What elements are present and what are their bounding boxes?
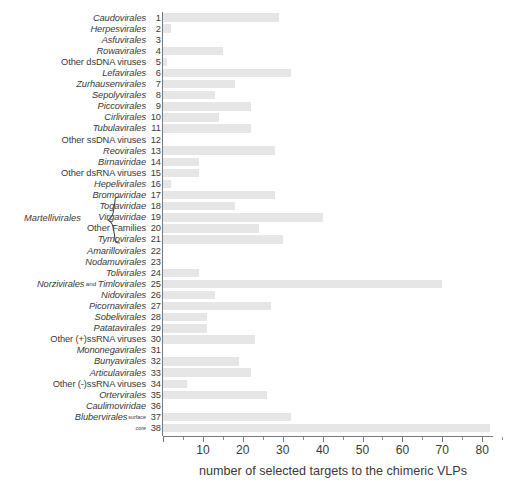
category-label-row: Other ssDNA viruses12 [0,134,163,145]
category-label-number: 25 [146,279,161,289]
bar [163,146,275,155]
bar [163,58,167,67]
category-label-name: Piccovirales [98,101,146,111]
x-axis-title: number of selected targets to the chimer… [163,464,503,478]
bar [163,391,267,400]
bar [163,380,187,389]
category-label-number: 24 [146,268,161,278]
x-tick-major [203,437,204,442]
x-tick-minor [183,437,184,440]
category-label-row: Articulavirales33 [0,367,163,378]
x-tick-label: 20 [236,443,249,457]
category-label-row: Rowavirales4 [0,45,163,56]
category-label-row: core38 [0,422,163,433]
category-label-number: 32 [146,356,161,366]
category-label-number: 12 [146,135,161,145]
category-label-name: Caudovirales [93,13,146,23]
category-label-name: Tymovirales [98,234,146,244]
x-tick-label: 60 [396,443,409,457]
bar [163,202,235,211]
bar [163,180,171,189]
x-tick-label: 10 [196,443,209,457]
bar [163,191,275,200]
category-label-name: Caulimoviridae [86,401,146,411]
category-label-number: 38 [146,423,161,433]
category-label-name: Sobelivirales [95,312,146,322]
category-label-row: Picornavirales27 [0,300,163,311]
category-label-number: 13 [146,146,161,156]
bar [163,235,283,244]
x-tick-label: 50 [356,443,369,457]
x-tick-label: 70 [436,443,449,457]
x-tick-minor [422,437,423,440]
category-label-number: 14 [146,157,161,167]
category-label-number: 35 [146,390,161,400]
category-label-name: Patatavirales [94,323,146,333]
category-label-name: Cirlivirales [104,112,146,122]
category-label-name: Blubervirales [75,412,127,422]
category-label-number: 29 [146,323,161,333]
category-label-name: Nidovirales [101,290,146,300]
category-label-row: Bromoviridae17 [0,190,163,201]
category-label-number: 7 [146,79,161,89]
category-label-row: Nodamuvirales23 [0,256,163,267]
x-tick-major [363,437,364,442]
x-tick-major [402,437,403,442]
category-label-name: Other dsRNA viruses [61,168,146,178]
category-label-name: Reovirales [103,146,146,156]
category-label-row: Patatavirales29 [0,323,163,334]
category-label-row: Nidovirales26 [0,289,163,300]
category-label-name: Togaviridae [99,201,146,211]
x-tick-minor [303,437,304,440]
category-label-row: Bluberviralessurface37 [0,411,163,422]
category-label-number: 27 [146,301,161,311]
bar [163,158,199,167]
bar [163,269,199,278]
category-label-row: Ortervirales35 [0,389,163,400]
category-label-number: 26 [146,290,161,300]
x-tick-minor [382,437,383,440]
category-label-number: 37 [146,412,161,422]
category-label-name: Other Families [87,223,146,233]
category-label-name: Other (-)ssRNA viruses [53,379,146,389]
category-label-number: 8 [146,90,161,100]
category-label-row: NorziviralesandTimlovirales25 [0,278,163,289]
category-label-name: Amarillovirales [87,246,146,256]
category-label-name: Nodamuvirales [85,257,146,267]
category-label-number: 20 [146,223,161,233]
category-label-number: 16 [146,179,161,189]
category-label-name: Zurhausenvirales [76,79,146,89]
category-label-name: Other (+)ssRNA viruses [50,334,146,344]
category-label-name: Norzivirales [37,279,84,289]
category-label-column: Caudovirales1Herpesvirales2Asfuvirales3R… [0,12,163,434]
category-label-number: 28 [146,312,161,322]
category-label-row: Other dsDNA viruses5 [0,56,163,67]
category-label-number: 34 [146,379,161,389]
category-label-number: 10 [146,112,161,122]
category-label-row: Caulimoviridae36 [0,400,163,411]
category-label-name: Articulavirales [90,368,146,378]
category-label-name: Sepolyvirales [92,90,146,100]
category-label-row: Sepolyvirales8 [0,90,163,101]
category-label-number: 2 [146,24,161,34]
category-label-row: Sobelivirales28 [0,312,163,323]
bar [163,24,171,33]
category-label-row: Reovirales13 [0,145,163,156]
category-label-row: Birnaviridae14 [0,156,163,167]
bar [163,91,215,100]
category-label-row: Togaviridae18 [0,201,163,212]
category-label-row: Other dsRNA viruses15 [0,167,163,178]
category-label-number: 19 [146,212,161,222]
category-label-name: Herpesvirales [90,24,146,34]
bar [163,280,442,289]
category-label-row: Amarillovirales22 [0,245,163,256]
y-axis-line [162,12,163,436]
category-label-name: Picornavirales [89,301,146,311]
category-label-superscript: core [135,425,147,431]
x-tick-major [482,437,483,442]
bar [163,291,215,300]
category-label-number: 31 [146,345,161,355]
category-label-conjunction: and [84,280,97,287]
category-label-row: Cirlivirales10 [0,112,163,123]
category-label-name: Hepelivirales [94,179,146,189]
